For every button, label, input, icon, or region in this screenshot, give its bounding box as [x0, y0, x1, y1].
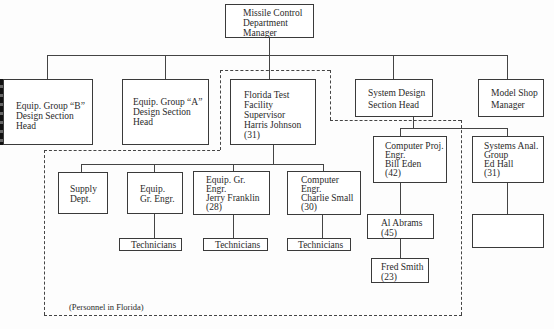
node-jerry-franklin: Equip. Gr. Engr. Jerry Franklin (28) — [193, 171, 270, 215]
node-technicians: Technicians — [203, 238, 268, 251]
connector — [400, 128, 508, 129]
connector — [154, 164, 155, 172]
connector — [413, 117, 414, 128]
connector — [154, 214, 155, 238]
connector — [507, 55, 508, 79]
florida-boundary — [220, 70, 221, 150]
node-label: Technicians — [298, 240, 343, 250]
connector — [400, 128, 401, 136]
florida-boundary — [44, 150, 220, 151]
connector — [165, 55, 166, 79]
connector — [507, 183, 508, 214]
node-label: Supply Dept. — [70, 184, 97, 204]
node-empty — [472, 214, 544, 248]
node-supply-dept: Supply Dept. — [58, 172, 108, 214]
node-charlie-small: Computer Engr. Charlie Small (30) — [287, 171, 361, 215]
connector — [233, 215, 234, 238]
florida-boundary — [44, 150, 45, 315]
node-florida-supervisor: Florida Test Facility Supervisor Harris … — [230, 79, 316, 145]
node-label: Florida Test Facility Supervisor Harris … — [244, 90, 301, 140]
node-label: Model Shop Manager — [491, 87, 538, 111]
node-label: Equip. Group “A” Design Section Head — [133, 97, 202, 127]
florida-boundary — [461, 120, 462, 315]
connector — [400, 239, 401, 258]
florida-boundary — [220, 70, 330, 71]
connector — [81, 164, 324, 165]
node-label: Equip. Group “B” Design Section Head — [16, 101, 85, 131]
node-equip-gr-engr: Equip. Gr. Engr. — [127, 172, 183, 214]
node-department-manager: Missile Control Department Manager — [225, 4, 314, 38]
connector — [47, 55, 48, 79]
node-label: System Design Section Head — [368, 87, 425, 111]
node-label: Equip. Gr. Engr. Jerry Franklin (28) — [206, 176, 260, 212]
connector — [400, 183, 401, 214]
connector — [322, 215, 323, 238]
connector — [47, 55, 508, 56]
node-al-abrams: Al Abrams (45) — [367, 214, 434, 239]
connector — [507, 128, 508, 136]
node-bill-eden: Computer Proj. Engr. Bill Eden (42) — [373, 136, 447, 183]
florida-boundary — [44, 315, 462, 316]
node-technicians: Technicians — [119, 238, 182, 251]
node-technicians: Technicians — [287, 238, 351, 251]
node-label: Technicians — [215, 240, 260, 250]
node-label: Computer Engr. Charlie Small (30) — [301, 176, 354, 212]
node-label: Al Abrams (45) — [381, 218, 422, 238]
florida-boundary — [330, 120, 461, 121]
node-label: Systems Anal. Group Ed Hall (31) — [484, 142, 538, 178]
node-label: Equip. Gr. Engr. — [140, 184, 175, 204]
node-group-a-head: Equip. Group “A” Design Section Head — [122, 79, 209, 145]
node-label: Computer Proj. Engr. Bill Eden (42) — [385, 142, 444, 178]
florida-boundary — [330, 70, 331, 120]
connector — [273, 145, 274, 165]
region-caption: (Personnel in Florida) — [69, 302, 144, 312]
node-label: Technicians — [131, 240, 176, 250]
connector — [81, 164, 82, 172]
node-fred-smith: Fred Smith (23) — [371, 258, 429, 283]
node-label: Fred Smith (23) — [381, 262, 424, 282]
connector — [393, 55, 394, 79]
node-group-b-head: Equip. Group “B” Design Section Head — [3, 79, 93, 145]
org-chart: Missile Control Department Manager Equip… — [0, 0, 554, 329]
node-model-shop-manager: Model Shop Manager — [478, 79, 544, 117]
node-label: Missile Control Department Manager — [243, 8, 302, 38]
node-ed-hall: Systems Anal. Group Ed Hall (31) — [472, 136, 544, 183]
connector — [269, 38, 270, 79]
node-system-design-head: System Design Section Head — [355, 79, 433, 117]
